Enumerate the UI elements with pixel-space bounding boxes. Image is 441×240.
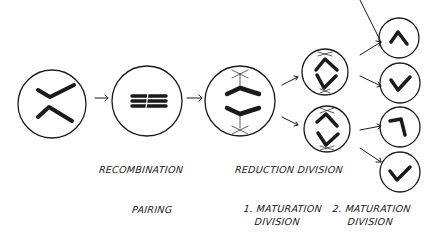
arrow-2: [187, 95, 202, 101]
cell-meiosis2-1: [379, 18, 419, 58]
cell-meiosis1-bottom: [304, 106, 350, 152]
label-pairing: PAIRING: [131, 203, 173, 216]
cell-reduction: [205, 66, 275, 136]
arrow-1: [95, 95, 108, 101]
label-maturation-2-line1: 2. MATURATION: [331, 202, 412, 215]
label-maturation-1-line1: 1. MATURATION: [243, 202, 314, 215]
label-maturation-1-line2: DIVISION: [242, 215, 313, 228]
arrow-4d: [360, 148, 381, 162]
arrow-4c: [360, 124, 381, 130]
arrow-3a: [282, 76, 298, 85]
cell-start: [18, 70, 86, 138]
label-maturation-2-line2: DIVISION: [330, 215, 411, 228]
label-reduction-division: REDUCTION DIVISION: [234, 163, 343, 176]
label-recombination: RECOMBINATION: [98, 163, 184, 176]
arrow-4b: [360, 76, 381, 87]
arrow-3b: [282, 117, 298, 126]
cell-meiosis1-top: [302, 49, 348, 95]
cell-meiosis2-4: [380, 152, 420, 192]
cell-pairing: [112, 66, 182, 136]
cell-meiosis2-3: [380, 107, 420, 147]
label-maturation-1: 1. MATURATION DIVISION: [242, 202, 315, 228]
cell-meiosis2-2: [380, 63, 420, 103]
arrow-4a: [360, 0, 381, 55]
label-maturation-2: 2. MATURATION DIVISION: [330, 202, 413, 228]
